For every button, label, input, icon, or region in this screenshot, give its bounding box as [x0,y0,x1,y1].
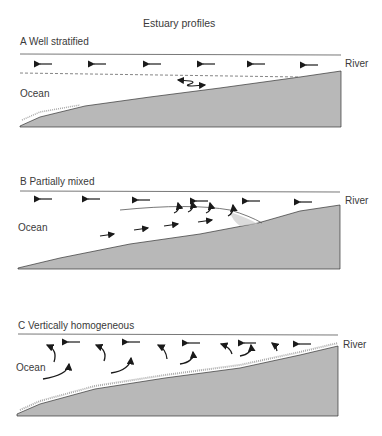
panel-c-diagram [0,286,382,436]
interface-mixing-arrow [178,80,205,86]
halocline-dashed-line [20,73,300,77]
seaward-flow-arrows [68,342,311,344]
seabed [18,205,340,269]
landward-bottom-flow-arrows [100,220,212,236]
seaward-flow-arrows [40,199,312,202]
seabed [17,346,338,416]
seaward-flow-arrows [40,64,318,65]
water-surface-line [20,191,340,192]
water-surface-line [20,54,341,55]
water-surface-line [18,334,338,335]
panel-a-diagram [0,0,382,140]
seabed [20,71,341,127]
panel-b-diagram [0,140,382,280]
